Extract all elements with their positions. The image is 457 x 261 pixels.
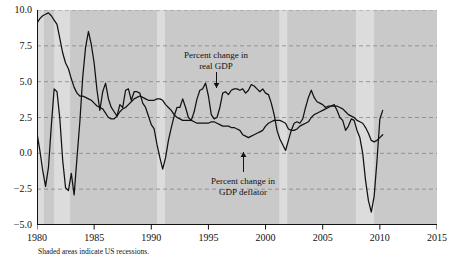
x-axis-label: 1985 [74,233,114,243]
arrow-head [241,152,247,157]
y-axis-label: −5.0 [0,220,32,230]
annotation-line-1: Percent change in [156,50,276,61]
arrow-head [214,83,220,88]
annotation-gdp-deflator: Percent change inGDP deflator [183,176,303,198]
annotation-line-2: GDP deflator [183,187,303,198]
x-axis-label: 1995 [188,233,228,243]
x-axis-label: 2005 [303,233,343,243]
y-axis-label: 2.5 [0,113,32,123]
y-axis-label: 0.0 [0,148,32,158]
y-axis-label: −2.5 [0,184,32,194]
x-axis-label: 1980 [17,233,57,243]
x-axis-label: 2000 [246,233,286,243]
y-axis-label: 7.5 [0,41,32,51]
y-axis-label: 5.0 [0,77,32,87]
recession-band [356,10,374,225]
chart-caption: Shaded areas indicate US recessions. [38,247,149,256]
annotation-arrow-real-gdp [211,70,222,90]
annotation-real-gdp: Percent change inreal GDP [156,50,276,72]
annotation-line-1: Percent change in [183,176,303,187]
x-axis-label: 1990 [131,233,171,243]
y-axis-label: 10.0 [0,5,32,15]
x-axis-label: 2015 [417,233,457,243]
x-axis-label: 2010 [360,233,400,243]
figure-gdp-deflator-chart: −5.0−2.50.02.55.07.510.0 198019851990199… [0,0,457,261]
annotation-arrow-gdp-deflator [238,150,249,174]
